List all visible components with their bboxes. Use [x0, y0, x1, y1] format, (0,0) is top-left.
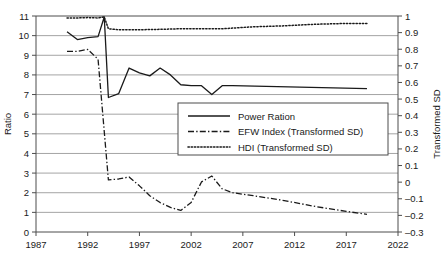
- y2-tick-label: 0.6: [405, 77, 418, 88]
- line-chart: 01234567891011 –0.3–0.2–0.100.10.20.30.4…: [0, 0, 448, 263]
- y2-tick-label: 0.2: [405, 143, 418, 154]
- y2-tick-label: 1: [405, 11, 410, 22]
- y2-tick-label: 0.3: [405, 127, 418, 138]
- x-tick-label: 1992: [77, 239, 98, 250]
- legend-label: Power Ration: [238, 111, 295, 122]
- y-tick-label: 11: [19, 11, 29, 22]
- y-tick-label: 5: [24, 128, 29, 139]
- x-tick-label: 1997: [129, 239, 150, 250]
- x-tick-label: 2022: [387, 239, 408, 250]
- y2-tick-label: –0.2: [405, 210, 424, 221]
- y-axis-title: Ratio: [2, 113, 13, 135]
- y2-axis-title: Transformed SD: [431, 89, 442, 158]
- y2-tick-label: 0.4: [405, 110, 418, 121]
- y2-tick-label: 0.1: [405, 160, 418, 171]
- y-tick-label: 3: [24, 168, 29, 179]
- y2-tick-label: 0.5: [405, 94, 418, 105]
- x-tick-label: 1987: [25, 239, 46, 250]
- legend-label: EFW Index (Transformed SD): [238, 126, 363, 137]
- chart-legend: Power RationEFW Index (Transformed SD)HD…: [178, 103, 388, 155]
- y2-tick-label: –0.3: [405, 227, 424, 238]
- y-tick-label: 10: [18, 30, 29, 41]
- y-tick-label: 2: [24, 187, 29, 198]
- x-tick-label: 2017: [336, 239, 357, 250]
- y2-tick-label: –0.1: [405, 193, 424, 204]
- y-tick-label: 8: [24, 69, 29, 80]
- y2-tick-label: 0: [405, 177, 410, 188]
- chart-container: 01234567891011 –0.3–0.2–0.100.10.20.30.4…: [0, 0, 448, 263]
- y-tick-label: 4: [24, 148, 29, 159]
- y2-tick-label: 0.7: [405, 60, 418, 71]
- y-tick-label: 9: [24, 50, 29, 61]
- y2-tick-label: 0.9: [405, 27, 418, 38]
- x-tick-label: 2012: [284, 239, 305, 250]
- y-tick-label: 1: [24, 207, 29, 218]
- y-tick-label: 6: [24, 109, 29, 120]
- legend-label: HDI (Transformed SD): [238, 142, 333, 153]
- y2-tick-label: 0.8: [405, 44, 418, 55]
- x-tick-label: 2002: [181, 239, 202, 250]
- y-tick-label: 7: [24, 89, 29, 100]
- y-tick-label: 0: [24, 227, 29, 238]
- x-tick-label: 2007: [232, 239, 253, 250]
